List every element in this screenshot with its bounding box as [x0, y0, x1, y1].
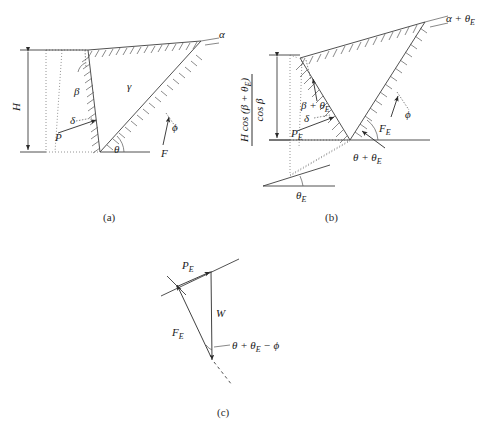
fraction-numerator: H cos (β + θ: [238, 86, 251, 143]
panel-b: H cos (β + θE) cos β: [238, 12, 475, 224]
label-phi-a: ϕ: [172, 121, 178, 133]
label-force-F: F: [160, 147, 168, 159]
dimension-H: [20, 50, 88, 152]
hatch-ground-a: [88, 42, 197, 58]
caption-b: (b): [325, 211, 338, 224]
failure-plane-b: [350, 22, 425, 140]
panel-b-reference-lines: [290, 55, 350, 175]
hatch-failure-b: [355, 28, 427, 137]
label-beta-a: β: [73, 85, 80, 97]
label-delta-b: δ: [304, 112, 310, 124]
ground-surface-a: [88, 41, 201, 50]
label-theta-a: θ: [114, 143, 120, 155]
delta-ref-b: [314, 115, 330, 118]
label-theta-plus-thetaE: θ + θE: [353, 151, 382, 166]
vector-PE-c: [176, 272, 210, 287]
panel-a: α H β γ δ P θ F ϕ (a): [10, 28, 225, 224]
caption-c: (c): [217, 406, 230, 419]
force-arrow-PE: [297, 117, 334, 131]
diagram-canvas: α H β γ δ P θ F ϕ (a) H cos (β + θE) cos…: [0, 0, 490, 434]
angle-leader-c: [214, 345, 230, 347]
fraction-denominator: cos β: [253, 98, 265, 121]
angle-arc-theta-b: [367, 120, 378, 140]
angle-arc-beta-a: [78, 63, 85, 72]
surface-extension-a: [201, 38, 219, 41]
failure-plane-a: [100, 41, 201, 152]
beta-ref-line-a: [85, 50, 86, 68]
label-force-PE-c: PE: [181, 259, 194, 274]
delta-ref-a: [76, 118, 92, 121]
force-arrow-P: [58, 120, 96, 133]
force-arrow-F: [163, 117, 169, 145]
PE-direction-line-c: [161, 259, 239, 296]
label-force-FE-c: FE: [171, 326, 184, 341]
fraction-numerator-tail: ): [238, 78, 251, 83]
FE-extension-c: [214, 362, 232, 385]
label-weight-W: W: [216, 307, 226, 319]
force-arrow-FE: [391, 96, 398, 117]
label-angle-expression-c: θ + θE − ϕ: [232, 339, 280, 354]
label-alpha-plus-thetaE: α + θE: [446, 12, 475, 27]
vector-W: [211, 271, 212, 360]
hatch-failure-a: [107, 55, 202, 150]
label-force-FE-b: FE: [378, 122, 391, 137]
panel-c: PE W FE θ + θE − ϕ (c): [161, 259, 280, 419]
figure-container: α H β γ δ P θ F ϕ (a) H cos (β + θE) cos…: [0, 0, 490, 434]
apex-tick-a: [205, 43, 219, 45]
svg-text:H cos (β + θE): H cos (β + θE): [238, 78, 253, 143]
surface-extension-b: [425, 16, 448, 22]
label-thetaE-ground: θE: [296, 189, 306, 204]
label-phi-b: ϕ: [405, 108, 411, 120]
label-alpha-a: α: [219, 28, 225, 40]
caption-a: (a): [103, 211, 116, 224]
label-gamma-a: γ: [127, 80, 132, 92]
vector-FE-c: [177, 285, 211, 357]
label-force-P: P: [54, 131, 62, 143]
hatch-ground-b: [301, 25, 417, 66]
effective-height-fraction: H cos (β + θE) cos β: [238, 74, 265, 146]
hatch-wall-a: [82, 57, 100, 153]
label-H: H: [10, 102, 22, 112]
label-delta-a: δ: [70, 114, 76, 126]
